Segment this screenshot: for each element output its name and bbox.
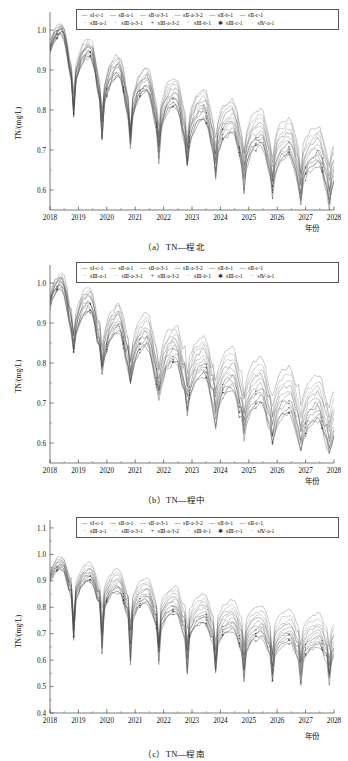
series-line: [50, 277, 334, 423]
legend-label: sⅠ-c-1: [90, 264, 103, 272]
chart-panel-c: 0.40.50.60.70.80.91.01.12018201920202021…: [0, 506, 348, 761]
x-tick-label: 2026: [270, 717, 285, 725]
legend-item-s-a-1: ·sⅢ-a-1: [80, 527, 107, 535]
legend-label: sⅣ-a-1: [258, 272, 275, 280]
legend-marker-icon: ·: [184, 272, 193, 280]
legend-item-s-b-1: —sⅡ-b-1: [208, 264, 233, 272]
legend-label: sⅡ-a-3-1: [148, 11, 168, 19]
x-tick-label: 2020: [100, 214, 115, 222]
legend-item-s-a-1: ·sⅣ-a-1: [248, 19, 275, 27]
series-line: [50, 24, 334, 173]
legend-label: sⅡ-a-1: [118, 11, 133, 19]
x-tick-label: 2028: [327, 467, 342, 475]
chart-panel-a: 0.60.70.80.91.02018201920202021202220232…: [0, 0, 348, 253]
legend-marker-icon: —: [108, 264, 117, 272]
legend-item-s-a-3-1: —sⅡ-a-3-1: [138, 519, 168, 527]
legend-item-s-a-1: ·sⅣ-a-1: [248, 527, 275, 535]
legend-label: sⅡ-a-3-2: [183, 264, 203, 272]
x-tick-label: 2027: [298, 214, 313, 222]
legend-label: sⅢ-c-1: [226, 527, 243, 535]
series-line: [50, 560, 334, 666]
legend-label: sⅡ-a-3-1: [148, 519, 168, 527]
legend-item-s-c-1: —sⅡ-c-1: [238, 11, 263, 19]
legend-marker-icon: —: [80, 264, 89, 272]
legend-label: sⅡ-b-1: [218, 264, 233, 272]
legend-label: sⅡ-c-1: [248, 519, 263, 527]
legend-item-s-a-1: ·sⅢ-a-1: [80, 19, 107, 27]
y-axis-label-c: TN/(mg/L): [14, 615, 23, 648]
series-markers: [56, 34, 322, 191]
x-tick-label: 2019: [71, 467, 86, 475]
legend-row-1-b: —sⅠ-c-1—sⅡ-a-1—sⅡ-a-3-1—sⅡ-a-3-2—sⅡ-b-1—…: [80, 264, 335, 272]
legend-marker-icon: —: [173, 11, 182, 19]
series-line: [50, 566, 334, 675]
legend-label: sⅢ-b-1: [194, 19, 211, 27]
panel-caption-b: （b）TN—程中: [0, 493, 348, 505]
x-tick-label: 2022: [156, 717, 171, 725]
legend-marker-icon: —: [238, 519, 247, 527]
figure-tn-projection: 0.60.70.80.91.02018201920202021202220232…: [0, 0, 348, 761]
y-tick-label: 1.0: [37, 280, 46, 288]
legend-item-s-c-1: —sⅠ-c-1: [80, 519, 103, 527]
legend-marker-icon: —: [238, 264, 247, 272]
legend-marker-icon: —: [238, 11, 247, 19]
legend-label: sⅢ-c-1: [226, 272, 243, 280]
x-tick-label: 2019: [71, 214, 86, 222]
x-tick-label: 2022: [156, 467, 171, 475]
series-group: [50, 24, 334, 210]
x-tick-label: 2023: [185, 467, 200, 475]
legend-item-s-c-1: —sⅡ-c-1: [238, 519, 263, 527]
series-markers: [56, 30, 322, 181]
x-tick-label: 2018: [43, 214, 58, 222]
legend-item-s-a-1: ·sⅣ-a-1: [248, 272, 275, 280]
legend-marker-icon: —: [173, 264, 182, 272]
legend-label: sⅡ-a-3-2: [183, 519, 203, 527]
legend-marker-icon: ·: [80, 19, 89, 27]
legend-marker-icon: ·: [248, 272, 257, 280]
legend-marker-icon: —: [108, 519, 117, 527]
legend-marker-icon: +: [148, 527, 157, 535]
legend-item-s-b-1: —sⅡ-b-1: [208, 519, 233, 527]
series-line: [50, 568, 334, 685]
legend-item-s-a-3-1: —sⅡ-a-3-1: [138, 264, 168, 272]
y-axis-label-a: TN/(mg/L): [14, 107, 23, 140]
legend-marker-icon: ·: [248, 527, 257, 535]
y-tick-label: 0.6: [37, 187, 46, 195]
series-line: [50, 280, 334, 439]
series-group: [50, 273, 334, 454]
series-group: [50, 557, 334, 685]
legend-item-s-c-1: ✱sⅢ-c-1: [216, 272, 243, 280]
legend-marker-icon: +: [148, 19, 157, 27]
x-tick-label: 2022: [156, 214, 171, 222]
legend-a: —sⅠ-c-1—sⅡ-a-1—sⅡ-a-3-1—sⅡ-a-3-2—sⅡ-b-1—…: [76, 9, 339, 30]
legend-marker-icon: —: [138, 264, 147, 272]
y-tick-label: 0.9: [37, 577, 46, 585]
legend-label: sⅢ-a-1: [90, 272, 107, 280]
x-tick-label: 2021: [128, 214, 143, 222]
legend-marker-icon: ·: [112, 527, 121, 535]
legend-label: sⅡ-a-1: [118, 519, 133, 527]
x-tick-label: 2024: [213, 467, 228, 475]
legend-marker-icon: —: [138, 11, 147, 19]
panel-caption-c: （c）TN—程南: [0, 747, 348, 759]
x-axis-label-b: 年份: [305, 475, 319, 486]
x-tick-label: 2025: [242, 214, 257, 222]
y-tick-label: 0.9: [37, 320, 46, 328]
legend-item-s-c-1: —sⅡ-c-1: [238, 264, 263, 272]
legend-row-2-a: ·sⅢ-a-1·sⅢ-a-3-1+sⅢ-a-3-2·sⅢ-b-1✱sⅢ-c-1·…: [80, 19, 335, 27]
legend-item-s-a-1: —sⅡ-a-1: [108, 519, 133, 527]
legend-item-s-c-1: ✱sⅢ-c-1: [216, 527, 243, 535]
legend-item-s-a-3-1: ·sⅢ-a-3-1: [112, 527, 143, 535]
x-tick-label: 2018: [43, 467, 58, 475]
series-line: [50, 25, 334, 172]
legend-marker-icon: ·: [80, 272, 89, 280]
y-tick-label: 0.8: [37, 107, 46, 115]
legend-item-s-a-3-2: +sⅢ-a-3-2: [148, 272, 179, 280]
legend-label: sⅡ-a-3-2: [183, 11, 203, 19]
series-markers: [56, 570, 322, 681]
x-tick-label: 2023: [185, 717, 200, 725]
series-markers: [56, 33, 322, 193]
legend-item-s-b-1: ·sⅢ-b-1: [184, 527, 211, 535]
legend-item-s-a-1: —sⅡ-a-1: [108, 11, 133, 19]
legend-label: sⅢ-b-1: [194, 272, 211, 280]
